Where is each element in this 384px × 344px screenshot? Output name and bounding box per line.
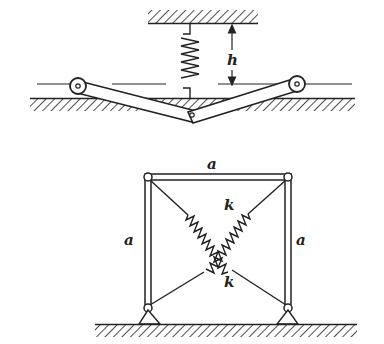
figure-a: h [30,10,355,123]
label-h: h [227,51,238,69]
roller-left [70,78,86,94]
label-top-a: a [207,155,217,173]
label-right-a: a [296,231,306,249]
ground-b [95,325,357,338]
pin-supports [139,310,298,324]
label-left-a: a [124,231,134,249]
ceiling [148,10,258,24]
figure-b: a a a k k [95,155,357,337]
dimension-h: h [227,25,238,85]
ground-a [30,99,355,112]
spring-vertical [181,24,199,98]
label-k-lower: k [224,273,234,291]
roller-right [289,76,305,92]
joint-pin [190,113,194,117]
label-k-upper: k [224,196,234,214]
diagram-canvas: h [0,0,384,344]
